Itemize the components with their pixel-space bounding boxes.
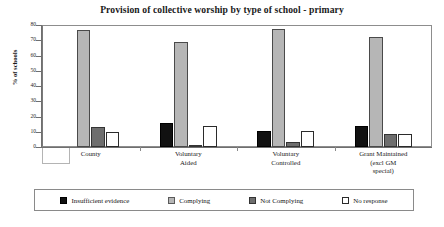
y-axis-tick (36, 40, 41, 41)
bar (106, 132, 120, 147)
y-axis-tick (36, 132, 41, 133)
bar-group (355, 25, 412, 147)
bar (398, 134, 412, 147)
y-axis-tick-label: 60 (2, 53, 36, 59)
legend-entry[interactable]: Insufficient evidence (60, 197, 129, 204)
legend-swatch-icon (249, 197, 256, 204)
category-label-line: (excl GM (335, 159, 433, 168)
y-axis-tick (36, 71, 41, 72)
y-axis-tick (36, 117, 41, 118)
legend-label: Complying (179, 197, 210, 204)
bar (174, 42, 188, 147)
legend-swatch-icon (60, 197, 67, 204)
category-label-line: special) (335, 167, 433, 176)
category-label-line: Voluntary (237, 150, 335, 159)
y-axis-tick-label: 40 (2, 83, 36, 89)
y-axis-tick-label: 50 (2, 68, 36, 74)
legend-entry[interactable]: Not Complying (249, 197, 303, 204)
bar (77, 30, 91, 147)
bar (272, 29, 286, 147)
y-axis-tick (36, 56, 41, 57)
bar (203, 126, 217, 147)
y-axis-tick-label: 70 (2, 37, 36, 43)
y-axis-tick-label: 0 (2, 144, 36, 150)
bar-group (160, 25, 217, 147)
y-axis-tick-label: 80 (2, 22, 36, 28)
x-axis-category-label: VoluntaryControlled (237, 150, 335, 167)
bar (301, 131, 315, 147)
legend-label: Not Complying (260, 197, 303, 204)
bar-group (257, 25, 314, 147)
chart-legend: Insufficient evidenceComplyingNot Comply… (34, 189, 414, 211)
category-label-line: County (42, 150, 140, 159)
bar (369, 37, 383, 147)
bar (355, 126, 369, 147)
y-axis-tick (36, 147, 41, 148)
y-axis-tick (36, 101, 41, 102)
bar (189, 145, 203, 147)
bar (91, 127, 105, 147)
category-label-line: Grant Maintained (335, 150, 433, 159)
bar-group (62, 25, 119, 147)
x-axis-category-label: Grant Maintained(excl GMspecial) (335, 150, 433, 176)
y-axis-tick-labels: 01020304050607080 (0, 0, 36, 227)
legend-entry[interactable]: No response (342, 197, 387, 204)
x-axis-category-label: County (42, 150, 140, 159)
y-axis-tick-label: 30 (2, 98, 36, 104)
y-axis-tick-label: 10 (2, 129, 36, 135)
legend-label: Insufficient evidence (71, 197, 129, 204)
legend-label: No response (353, 197, 387, 204)
legend-entry[interactable]: Complying (168, 197, 210, 204)
chart-figure: Provision of collective worship by type … (0, 0, 444, 227)
bar (160, 123, 174, 147)
x-axis-category-label: VoluntaryAided (140, 150, 238, 167)
category-label-line: Aided (140, 159, 238, 168)
legend-swatch-icon (168, 197, 175, 204)
category-label-line: Voluntary (140, 150, 238, 159)
y-axis-tick (36, 25, 41, 26)
bar (384, 134, 398, 147)
category-label-line: Controlled (237, 159, 335, 168)
y-axis-tick (36, 86, 41, 87)
chart-title: Provision of collective worship by type … (0, 4, 444, 15)
bar (257, 131, 271, 147)
y-axis-tick-label: 20 (2, 114, 36, 120)
legend-swatch-icon (342, 197, 349, 204)
bar (286, 142, 300, 147)
